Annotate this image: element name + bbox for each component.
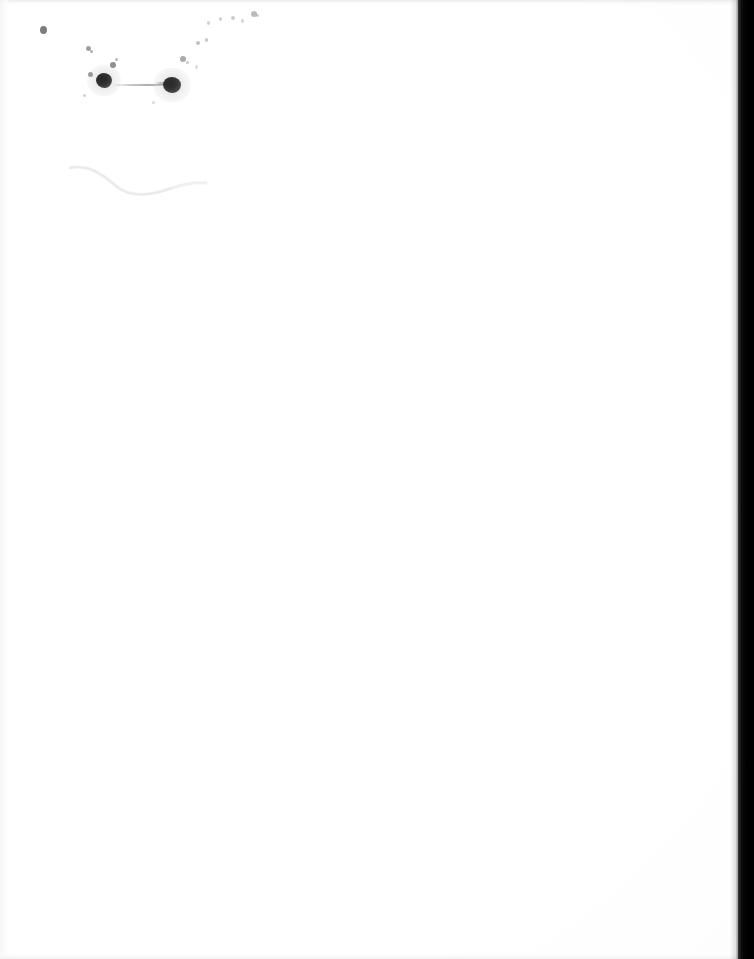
top-edge-shading (0, 0, 740, 5)
scanner-edge-band (738, 0, 754, 959)
scanned-page-canvas (0, 0, 754, 959)
scanner-edge-feather (730, 0, 738, 959)
left-edge-shading (0, 0, 10, 959)
bottom-edge-shading (0, 953, 740, 959)
paper-sheet (0, 0, 740, 959)
